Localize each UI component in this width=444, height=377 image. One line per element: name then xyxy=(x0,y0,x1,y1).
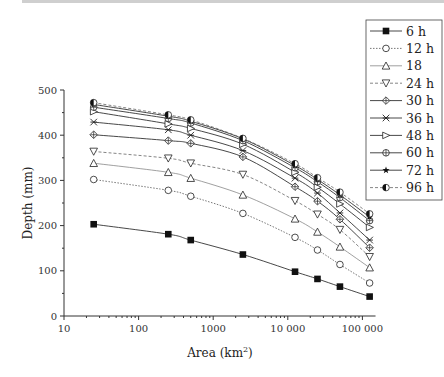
series-line xyxy=(94,107,370,220)
data-marker xyxy=(314,211,322,218)
x-tick-label: 100 xyxy=(129,323,148,334)
series-line xyxy=(94,151,370,256)
y-axis-title: Depth (mm) xyxy=(21,167,35,240)
series-18 xyxy=(90,159,374,271)
data-marker xyxy=(240,251,247,258)
data-marker xyxy=(336,243,344,250)
x-tick-label: 10 000 xyxy=(270,323,305,334)
data-marker xyxy=(314,276,321,283)
series-group xyxy=(90,99,374,300)
data-marker xyxy=(90,148,98,155)
y-tick-label: 200 xyxy=(38,220,57,231)
data-marker xyxy=(366,253,374,260)
data-marker xyxy=(90,221,97,228)
data-marker xyxy=(291,197,299,204)
y-tick-label: 0 xyxy=(51,311,57,322)
legend-label: 72 h xyxy=(406,163,434,178)
series-line xyxy=(94,104,370,217)
series-48h xyxy=(90,108,373,230)
legend: 6 h12 h1824 h30 h36 h48 h60 h72 h96 h xyxy=(366,20,442,200)
data-marker xyxy=(337,261,344,268)
x-tick-label: 10 xyxy=(58,323,71,334)
data-marker xyxy=(165,187,172,194)
series-line xyxy=(94,163,370,267)
data-marker xyxy=(292,175,299,182)
data-marker-cross xyxy=(292,183,299,190)
x-tick-label: 1000 xyxy=(200,323,225,334)
legend-marker xyxy=(383,28,390,35)
data-marker xyxy=(239,191,247,198)
legend-label: 6 h xyxy=(406,24,426,39)
data-marker xyxy=(337,283,344,290)
series-line xyxy=(94,224,370,296)
legend-label: 96 h xyxy=(406,180,434,195)
legend-label: 12 h xyxy=(406,41,434,56)
series-line xyxy=(94,112,370,228)
series-line xyxy=(94,103,370,214)
data-marker xyxy=(314,190,321,197)
series-60h xyxy=(90,104,373,224)
legend-label: 48 h xyxy=(406,128,434,143)
data-marker xyxy=(239,171,247,178)
series-96h xyxy=(90,99,373,217)
y-tick-label: 500 xyxy=(38,85,57,96)
y-tick-label: 300 xyxy=(38,175,57,186)
data-marker xyxy=(187,193,194,200)
data-marker xyxy=(187,132,194,139)
legend-label: 18 xyxy=(406,58,422,73)
data-marker xyxy=(366,264,374,271)
data-marker xyxy=(314,228,322,235)
legend-label: 30 h xyxy=(406,93,434,108)
data-marker xyxy=(292,234,299,241)
data-marker xyxy=(165,126,172,133)
data-marker xyxy=(291,215,299,222)
legend-label: 24 h xyxy=(406,76,434,91)
series-72h xyxy=(90,101,373,220)
data-marker xyxy=(366,224,373,231)
data-marker xyxy=(366,293,373,300)
axes: 010020030040050010100100010 000100 000 xyxy=(38,85,383,335)
data-marker xyxy=(187,237,194,244)
data-marker-cross xyxy=(240,154,247,161)
data-marker xyxy=(366,237,373,244)
legend-label: 60 h xyxy=(406,145,434,160)
y-tick-label: 100 xyxy=(38,265,57,276)
data-marker xyxy=(90,119,97,126)
series-12h xyxy=(90,176,373,286)
data-marker xyxy=(90,176,97,183)
data-marker-cross xyxy=(165,137,172,144)
legend-marker xyxy=(383,45,390,52)
data-marker xyxy=(314,247,321,254)
y-tick-label: 400 xyxy=(38,130,57,141)
legend-label: 36 h xyxy=(406,111,434,126)
data-marker xyxy=(165,231,172,238)
data-marker-cross xyxy=(314,198,321,205)
series-6h xyxy=(90,221,373,300)
data-marker-cross xyxy=(90,131,97,138)
data-marker xyxy=(366,280,373,287)
data-marker xyxy=(240,210,247,217)
data-marker-cross xyxy=(187,140,194,147)
data-marker xyxy=(187,174,195,181)
data-marker xyxy=(90,159,98,166)
x-axis-title: Area (km2) xyxy=(186,345,253,360)
data-marker xyxy=(292,268,299,275)
x-tick-label: 100 000 xyxy=(342,323,383,334)
depth-area-chart: 010020030040050010100100010 000100 000 6… xyxy=(0,0,444,377)
